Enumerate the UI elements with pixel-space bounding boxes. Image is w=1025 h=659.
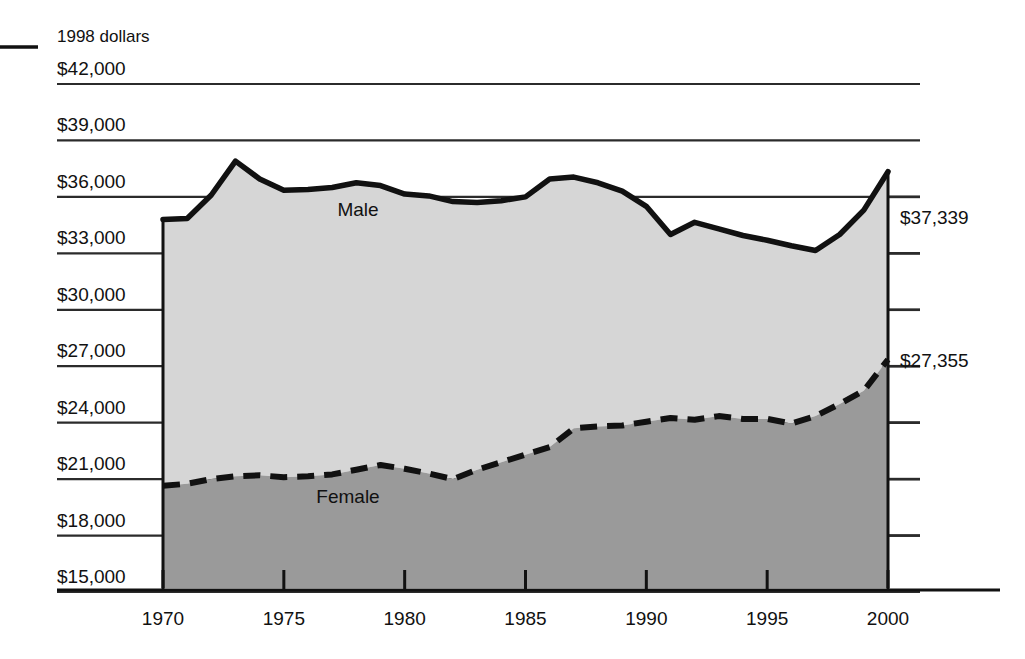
endpoint-label-male: $37,339 — [900, 207, 969, 228]
series-label-female: Female — [316, 486, 379, 507]
x-axis-tick-label: 1990 — [625, 608, 667, 629]
series-label-male: Male — [337, 199, 378, 220]
endpoint-label-female: $27,355 — [900, 350, 969, 371]
y-axis-tick-label: $27,000 — [57, 340, 126, 361]
x-axis-tick-label: 1970 — [142, 608, 184, 629]
y-axis-tick-label: $36,000 — [57, 171, 126, 192]
income-by-sex-area-chart: 1998 dollars $42,000$39,000$36,000$33,00… — [0, 0, 1025, 659]
x-axis-tick-label: 1985 — [504, 608, 546, 629]
y-axis-tick-label: $33,000 — [57, 227, 126, 248]
chart-container: 1998 dollars $42,000$39,000$36,000$33,00… — [0, 0, 1025, 659]
x-axis-tick-label: 1980 — [384, 608, 426, 629]
unit-note-label: 1998 dollars — [57, 27, 150, 46]
x-axis-tick-label: 2000 — [867, 608, 909, 629]
y-axis-tick-label: $21,000 — [57, 453, 126, 474]
y-axis-tick-label: $24,000 — [57, 397, 126, 418]
y-axis-tick-label: $18,000 — [57, 510, 126, 531]
x-axis-tick-label: 1995 — [746, 608, 788, 629]
y-axis-tick-label: $42,000 — [57, 58, 126, 79]
x-axis-tick-label: 1975 — [263, 608, 305, 629]
y-axis-tick-label: $30,000 — [57, 284, 126, 305]
y-axis-tick-label: $15,000 — [57, 566, 126, 587]
y-axis-tick-label: $39,000 — [57, 114, 126, 135]
